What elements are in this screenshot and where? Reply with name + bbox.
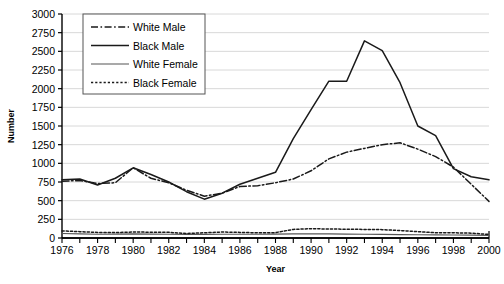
- x-axis-tick-label: 1990: [299, 244, 323, 256]
- x-axis-tick-label: 1984: [193, 244, 217, 256]
- y-axis-tick-label: 750: [37, 176, 55, 188]
- y-axis-tick-label: 1500: [32, 120, 56, 132]
- x-axis-tick-label: 1988: [264, 244, 288, 256]
- x-axis-tick-label: 1982: [157, 244, 181, 256]
- x-axis-tick-label: 1998: [442, 244, 466, 256]
- x-axis-tick-label: 1978: [86, 244, 110, 256]
- y-axis-tick-label: 1000: [32, 157, 56, 169]
- x-axis-tick-label: 1976: [50, 244, 74, 256]
- legend-label-black-male: Black Male: [133, 40, 185, 52]
- y-axis-tick-label: 500: [37, 195, 55, 207]
- x-axis: 1976197819801982198419861988199019921994…: [50, 238, 501, 256]
- legend-label-white-female: White Female: [133, 58, 198, 70]
- x-axis-tick-label: 2000: [477, 244, 501, 256]
- x-axis-tick-label: 1994: [371, 244, 395, 256]
- y-axis-tick-label: 1250: [32, 139, 56, 151]
- chart-canvas: 0250500750100012501500175020002250250027…: [0, 0, 504, 284]
- x-axis-title: Year: [266, 264, 286, 274]
- legend-label-white-male: White Male: [133, 21, 186, 33]
- y-axis: 0250500750100012501500175020002250250027…: [32, 8, 62, 244]
- x-axis-tick-label: 1992: [335, 244, 359, 256]
- y-axis-title: Number: [6, 109, 16, 144]
- y-axis-tick-label: 1750: [32, 101, 56, 113]
- y-axis-tick-label: 2500: [32, 45, 56, 57]
- line-chart: 0250500750100012501500175020002250250027…: [0, 0, 504, 284]
- legend: White MaleBlack MaleWhite FemaleBlack Fe…: [83, 14, 205, 94]
- x-axis-tick-label: 1986: [228, 244, 252, 256]
- y-axis-tick-label: 250: [37, 213, 55, 225]
- y-axis-tick-label: 0: [49, 232, 55, 244]
- legend-label-black-female: Black Female: [133, 77, 197, 89]
- y-axis-tick-label: 2000: [32, 83, 56, 95]
- y-axis-tick-label: 2250: [32, 64, 56, 76]
- x-axis-tick-label: 1980: [121, 244, 145, 256]
- series-line-white-female: [62, 234, 489, 236]
- x-axis-tick-label: 1996: [406, 244, 430, 256]
- y-axis-tick-label: 3000: [32, 8, 56, 20]
- y-axis-tick-label: 2750: [32, 27, 56, 39]
